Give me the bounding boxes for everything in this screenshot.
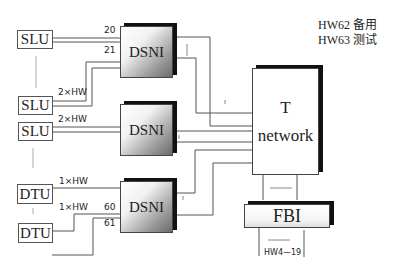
t-network-title: T bbox=[280, 94, 290, 122]
dtu-unit-1: DTU bbox=[17, 184, 53, 204]
slu-unit-1: SLU bbox=[17, 30, 53, 49]
port-label-60: 60 bbox=[104, 202, 115, 212]
port-label-20: 20 bbox=[104, 25, 115, 35]
dsni-module-1: DSNI bbox=[120, 26, 173, 78]
dtu-unit-2: DTU bbox=[18, 223, 53, 243]
slu-unit-3: SLU bbox=[18, 122, 53, 141]
slu-unit-2: SLU bbox=[18, 96, 53, 115]
port-label-21: 21 bbox=[104, 45, 115, 55]
t-network-subtitle: network bbox=[258, 122, 314, 150]
port-label-61: 61 bbox=[104, 218, 115, 228]
diagram-canvas: SLU SLU SLU DTU DTU DSNI DSNI DSNI T net… bbox=[0, 0, 397, 272]
t-network-module: T network bbox=[252, 68, 319, 175]
fbi-module: FBI bbox=[244, 204, 330, 228]
fbi-hw-label: HW4—19 bbox=[264, 248, 301, 257]
dsni-module-2: DSNI bbox=[120, 104, 173, 156]
hw-label-1x-a: 1×HW bbox=[59, 176, 88, 186]
legend-hw63: HW63 测试 bbox=[318, 33, 377, 48]
hw-label-2x-a: 2×HW bbox=[58, 87, 87, 97]
dsni-module-3: DSNI bbox=[120, 181, 173, 233]
legend-hw62: HW62 备用 bbox=[318, 18, 377, 33]
hw-label-2x-b: 2×HW bbox=[58, 114, 87, 124]
hw-label-1x-b: 1×HW bbox=[59, 202, 88, 212]
